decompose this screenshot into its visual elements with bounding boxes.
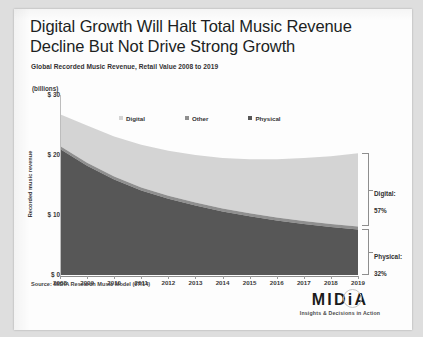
midia-wordmark: MIDiA [312, 291, 368, 309]
slide-card: Digital Growth Will Halt Total Music Rev… [14, 9, 412, 330]
legend-swatch-icon [119, 116, 123, 120]
legend-label: Physical [255, 115, 280, 122]
legend-item-digital[interactable]: Digital [119, 115, 145, 122]
digital-bracket [362, 153, 369, 226]
x-axis-tick-label: 2014 [208, 279, 238, 286]
physical-annotation-value: 32% [374, 270, 387, 277]
x-axis-tick-label: 2018 [316, 279, 346, 286]
x-axis-tick-label: 2012 [153, 279, 183, 286]
scanned-page-background: Digital Growth Will Halt Total Music Rev… [0, 0, 423, 337]
midia-tagline: Insights & Decisions in Action [284, 310, 396, 316]
x-axis-tick-label: 2013 [180, 279, 210, 286]
x-axis-tick-mark [60, 276, 61, 279]
legend-swatch-icon [248, 116, 252, 120]
physical-bracket [362, 229, 369, 275]
x-axis-tick-mark [304, 276, 305, 279]
digital-annotation: Digital: 57% [374, 182, 396, 216]
legend-swatch-icon [185, 116, 189, 120]
midia-logo: MIDiA Insights & Decisions in Action [284, 291, 396, 316]
x-axis-tick-label: 2019 [343, 279, 373, 286]
source-note: Source: MIDiA Research Music Model (07/1… [31, 281, 150, 287]
x-axis-tick-mark [141, 276, 142, 279]
x-axis-tick-mark [277, 276, 278, 279]
chart-legend: DigitalOtherPhysical [119, 112, 281, 124]
x-axis-tick-mark [87, 276, 88, 279]
legend-label: Digital [126, 115, 145, 122]
physical-annotation-name: Physical: [374, 253, 402, 260]
physical-bracket-tick [369, 252, 373, 253]
x-axis-tick-mark [250, 276, 251, 279]
legend-item-physical[interactable]: Physical [248, 115, 280, 122]
physical-annotation: Physical: 32% [374, 244, 402, 278]
x-axis-tick-label: 2016 [262, 279, 292, 286]
x-axis-tick-mark [114, 276, 115, 279]
digital-annotation-name: Digital: [374, 190, 396, 197]
legend-label: Other [192, 115, 209, 122]
x-axis-tick-label: 2015 [235, 279, 265, 286]
x-axis-tick-label: 2017 [289, 279, 319, 286]
digital-annotation-value: 57% [374, 207, 387, 214]
x-axis-tick-mark [331, 276, 332, 279]
x-axis-tick-mark [168, 276, 169, 279]
legend-item-other[interactable]: Other [185, 115, 209, 122]
x-axis-tick-mark [223, 276, 224, 279]
x-axis-tick-mark [358, 276, 359, 279]
digital-bracket-tick [369, 190, 373, 191]
x-axis-tick-mark [195, 276, 196, 279]
